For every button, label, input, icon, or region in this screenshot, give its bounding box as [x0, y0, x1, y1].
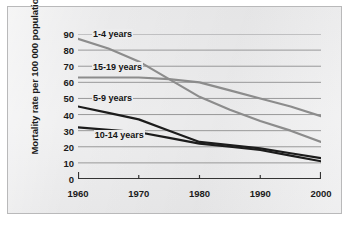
y-tick-label: 70 [63, 61, 74, 72]
y-tick-label: 0 [69, 174, 74, 185]
y-tick-label: 40 [63, 109, 74, 120]
x-tick-label: 1980 [189, 188, 210, 199]
y-axis-title: Mortality rate per 100 000 population [29, 5, 40, 155]
y-tick-label: 20 [63, 141, 74, 152]
series-label: 5-9 years [92, 93, 133, 103]
series-label: 15-19 years [92, 62, 143, 72]
line-chart-svg [78, 34, 321, 179]
series-label: 10-14 years [94, 130, 145, 140]
series-label: 1-4 years [92, 29, 133, 39]
y-tick-label: 10 [63, 157, 74, 168]
y-tick-label: 60 [63, 77, 74, 88]
x-tick-label: 2000 [310, 188, 331, 199]
x-tick-label: 1970 [128, 188, 149, 199]
y-tick-label: 80 [63, 45, 74, 56]
y-tick-label: 90 [63, 29, 74, 40]
x-tick-label: 1960 [67, 188, 88, 199]
x-tick-label: 1990 [250, 188, 271, 199]
y-tick-label: 50 [63, 93, 74, 104]
figure-frame: Mortality rate per 100 000 population 01… [7, 6, 342, 214]
y-tick-label: 30 [63, 125, 74, 136]
chart-page: Mortality rate per 100 000 population 01… [0, 0, 349, 238]
plot-area: 0102030405060708090 19601970198019902000… [78, 34, 321, 179]
